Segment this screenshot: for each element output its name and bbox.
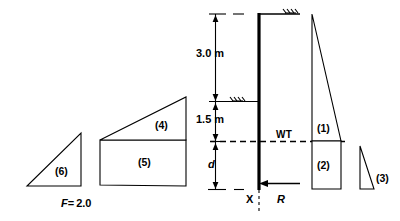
pivot-point-label: X (246, 194, 253, 205)
shape-6-label: (6) (55, 166, 68, 177)
safety-factor-symbol: F (61, 197, 68, 209)
safety-factor-value: 2.0 (76, 197, 91, 209)
dimension-arrow-d-top (213, 143, 219, 150)
shape-4-triangle (100, 97, 186, 140)
shape-4-label: (4) (155, 120, 168, 131)
ground-hatch-top-icon (283, 9, 298, 13)
safety-factor-equals: = (68, 197, 74, 209)
earth-pressure-figure: (6) (5) (4) F=2.0 3.0 m 1.5 m d WT X R (… (0, 0, 400, 221)
pressure-block-2-label: (2) (317, 160, 330, 171)
pressure-block-3-label: (3) (376, 173, 389, 184)
pressure-block-1-label: (1) (317, 123, 330, 134)
reaction-force-label: R (277, 194, 285, 205)
safety-factor-label: F=2.0 (61, 198, 91, 209)
dimension-arrow-1p5m-top (213, 103, 219, 110)
dimension-d-label: d (208, 159, 215, 170)
dimension-arrow-3m-bottom (213, 94, 219, 101)
dimension-arrow-1p5m-bottom (213, 134, 219, 141)
figure-canvas (0, 0, 400, 221)
ground-hatch-middle-icon (230, 97, 245, 101)
dimension-3m-label: 3.0 m (196, 48, 224, 59)
dimension-arrow-d-bottom (213, 182, 219, 189)
dimension-arrow-top (213, 15, 219, 22)
dimension-1p5m-label: 1.5 m (196, 114, 224, 125)
shape-6-triangle (27, 133, 81, 186)
shape-5-label: (5) (138, 157, 151, 168)
water-table-label: WT (276, 130, 292, 140)
pressure-block-3-triangle (360, 146, 374, 189)
